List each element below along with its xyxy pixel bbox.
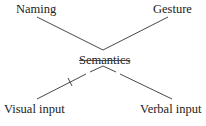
node-gesture: Gesture: [153, 3, 192, 16]
node-verbal-input: Verbal input: [140, 103, 201, 116]
edge-gesture-semantics: [103, 17, 168, 50]
node-semantics: Semantics: [79, 54, 130, 67]
edge-verbal-semantics-lower: [120, 74, 172, 99]
node-visual-input: Visual input: [4, 103, 65, 116]
edge-naming-semantics: [37, 17, 103, 50]
break-mark-icon: [68, 78, 72, 86]
semantics-diagram: Naming Gesture Semantics Visual input Ve…: [0, 0, 206, 126]
node-naming: Naming: [16, 3, 56, 16]
edge-visual-semantics-lower: [37, 74, 86, 99]
